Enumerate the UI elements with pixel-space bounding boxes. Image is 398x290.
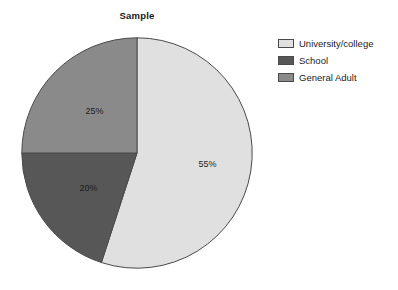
legend-swatch-icon (278, 73, 294, 82)
pie-slice[interactable] (22, 38, 137, 153)
legend-item[interactable]: School (278, 53, 396, 68)
legend-swatch-icon (278, 56, 294, 65)
legend-item[interactable]: General Adult (278, 70, 396, 85)
chart-legend: University/collegeSchoolGeneral Adult (278, 36, 396, 87)
pie-slice-label: 25% (86, 106, 104, 116)
legend-item-label: General Adult (299, 73, 357, 83)
pie-slice-group (22, 38, 252, 268)
pie-chart: 55%20%25% (21, 37, 253, 269)
pie-slice-label: 20% (79, 183, 97, 193)
pie-slice-label: 55% (198, 159, 216, 169)
legend-swatch-icon (278, 39, 294, 48)
legend-item-label: University/college (299, 39, 373, 49)
chart-canvas: Sample 55%20%25% University/collegeSchoo… (0, 0, 398, 290)
legend-item-label: School (299, 56, 328, 66)
legend-item[interactable]: University/college (278, 36, 396, 51)
chart-title: Sample (0, 10, 274, 21)
pie-svg: 55%20%25% (21, 37, 253, 269)
